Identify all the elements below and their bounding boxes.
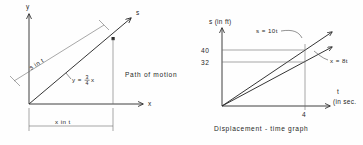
panel-displacement-time-graph: s (in ft) t (in sec. 40 32 4 s = 10t [201,18,356,133]
series-label-leader-s-10t [281,30,302,38]
s-measure-tick-start [10,76,20,86]
t-axis-label-unit: (in sec. [333,98,356,106]
line-equation: y = 3 4 x [72,74,95,86]
tick-label-40: 40 [201,47,209,54]
series-label-x-8t: x = 8t [330,57,348,64]
figure-root: y x s s in t y = 3 [0,0,363,145]
s-in-t-label: s in t [28,57,45,71]
series-line-s-10t [222,32,332,106]
y-axis-label: y [26,3,30,11]
tick-label-4: 4 [302,111,306,118]
tick-label-32: 32 [201,59,209,66]
x-axis-label: x [148,100,152,107]
displacement-vector-label: s [136,9,140,16]
equation-leader-line [66,73,71,79]
figure-svg: y x s s in t y = 3 [0,0,363,145]
series-label-s-10t: s = 10t [256,27,278,34]
series-line-x-8t [222,47,332,106]
s-axis-label: s (in ft) [209,18,232,26]
line-equation-denominator: 4 [86,80,89,86]
panel-path-of-motion: y x s s in t y = 3 [10,3,177,131]
s-measure-line [14,25,104,81]
s-measure-tick-end [99,20,109,30]
line-equation-lhs: y = [72,76,82,83]
line-equation-var: x [91,76,95,83]
displacement-vector-arrow [29,18,131,104]
t-axis-label-symbol: t [337,88,339,95]
x-in-t-label: x in t [55,118,71,125]
displacement-time-graph-caption: Displacement - time graph [214,125,308,133]
path-of-motion-caption: Path of motion [125,71,177,78]
